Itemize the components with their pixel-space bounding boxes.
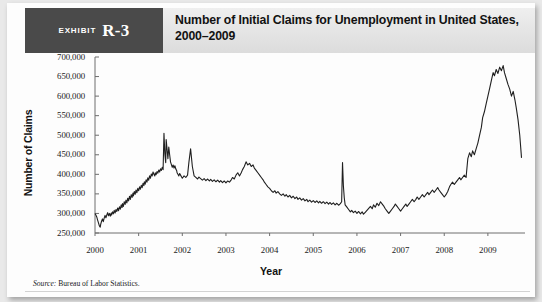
exhibit-number: R-3 [102,21,129,41]
y-tick-400000: 400,000 [23,169,85,179]
x-tick-2002: 2002 [159,245,205,255]
line-chart-plot [87,55,527,241]
y-tick-550000: 550,000 [23,110,85,120]
x-tick-2003: 2003 [203,245,249,255]
x-tick-2007: 2007 [378,245,424,255]
footer-divider [25,291,530,292]
x-axis-label: Year [7,265,535,277]
exhibit-page: EXHIBIT R-3 Number of Initial Claims for… [7,3,535,297]
exhibit-title: Number of Initial Claims for Unemploymen… [175,13,525,44]
y-tick-650000: 650,000 [23,71,85,81]
x-tick-2004: 2004 [247,245,293,255]
exhibit-badge: EXHIBIT R-3 [25,8,163,53]
y-tick-500000: 500,000 [23,130,85,140]
y-tick-250000: 250,000 [23,228,85,238]
y-axis-tick-labels: 250,000300,000350,000400,000450,000500,0… [19,55,85,235]
source-note: Source: Bureau of Labor Statistics. [33,279,140,288]
x-tick-2005: 2005 [290,245,336,255]
x-axis-tick-labels: 2000200120022003200420052006200720082009 [7,245,535,259]
exhibit-label: EXHIBIT [58,26,96,35]
claims-series-line [95,66,522,228]
axis-tick-marks [95,57,488,236]
y-tick-300000: 300,000 [23,208,85,218]
source-prefix: Source: [33,279,56,288]
y-tick-600000: 600,000 [23,91,85,101]
y-tick-450000: 450,000 [23,149,85,159]
x-tick-2006: 2006 [334,245,380,255]
y-tick-350000: 350,000 [23,188,85,198]
chart-axes [95,57,525,233]
x-tick-2008: 2008 [421,245,467,255]
chart-container: Number of Claims 250,000300,000350,00040… [7,55,535,270]
exhibit-header: EXHIBIT R-3 Number of Initial Claims for… [25,8,535,53]
source-text: Bureau of Labor Statistics. [58,279,139,288]
x-tick-2001: 2001 [116,245,162,255]
x-tick-2000: 2000 [72,245,118,255]
x-tick-2009: 2009 [465,245,511,255]
y-tick-700000: 700,000 [23,52,85,62]
